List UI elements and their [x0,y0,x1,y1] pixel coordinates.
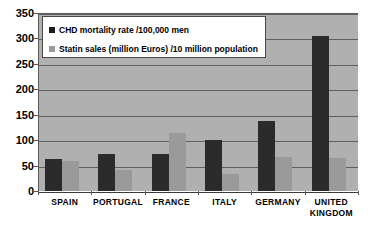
bar [222,174,239,191]
bar [169,133,186,191]
legend-label: Statin sales (million Euros) /10 million… [59,45,258,54]
bar-group [306,14,359,191]
bar-chart: 050100150200250300350 SPAINPORTUGALFRANC… [0,0,370,231]
y-tick-label-350: 350 [0,8,34,19]
x-tick-mark [145,191,146,195]
x-tick-mark [305,191,306,195]
legend-label: CHD mortality rate /100,000 men [59,26,189,35]
bar [205,140,222,191]
x-label-line: UNITED [291,197,370,208]
y-tick-label-100: 100 [0,135,34,146]
y-tick-label-50: 50 [0,161,34,172]
bar [312,36,329,191]
y-tick-label-250: 250 [0,59,34,70]
y-tick-label-300: 300 [0,33,34,44]
bar [45,159,62,191]
chart-legend: CHD mortality rate /100,000 menStatin sa… [42,16,266,58]
y-tick-label-150: 150 [0,110,34,121]
x-tick-mark [91,191,92,195]
bar [152,154,169,191]
x-tick-mark [358,191,359,195]
y-tick-label-200: 200 [0,84,34,95]
bar [275,157,292,191]
y-tick-label-0: 0 [0,186,34,197]
x-tick-mark [251,191,252,195]
bar [258,121,275,191]
x-tick-mark [38,191,39,195]
x-tick-mark [198,191,199,195]
legend-item: Statin sales (million Euros) /10 million… [49,41,259,57]
legend-swatch-icon [49,46,55,52]
x-label-united-kingdom: UNITEDKINGDOM [291,197,370,219]
bar [329,158,346,191]
x-label-line: KINGDOM [291,208,370,219]
bar [98,154,115,191]
bar [62,161,79,192]
legend-item: CHD mortality rate /100,000 men [49,22,259,38]
bar [115,170,132,191]
legend-swatch-icon [49,27,55,33]
